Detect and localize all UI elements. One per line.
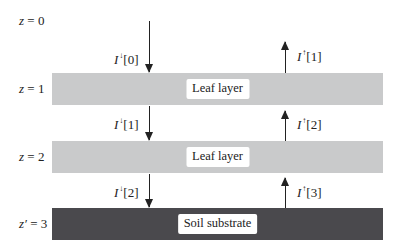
arrow-down-icon bbox=[149, 21, 150, 72]
flux-down-1: I↓[1] bbox=[114, 116, 139, 133]
flux-symbol: I bbox=[114, 117, 118, 132]
flux-index: [1] bbox=[306, 49, 321, 64]
arrow-down-icon bbox=[149, 106, 150, 140]
flux-symbol: I bbox=[114, 52, 118, 67]
arrow-up-icon bbox=[285, 178, 286, 208]
flux-up-1: I↑[1] bbox=[297, 48, 322, 65]
depth-label-z1: z = 1 bbox=[19, 81, 44, 97]
depth-value: = 3 bbox=[27, 216, 47, 231]
flux-up-2: I↑[2] bbox=[297, 116, 322, 133]
flux-symbol: I bbox=[114, 185, 118, 200]
arrow-up-icon bbox=[285, 42, 286, 73]
flux-symbol: I bbox=[297, 117, 301, 132]
flux-index: [2] bbox=[123, 185, 138, 200]
depth-label-z3: z′ = 3 bbox=[19, 216, 47, 232]
layer-label: Leaf layer bbox=[186, 147, 249, 167]
flux-symbol: I bbox=[297, 49, 301, 64]
leaf-layer-1: Leaf layer bbox=[52, 73, 383, 105]
flux-down-0: I↓[0] bbox=[114, 51, 139, 68]
layer-label: Soil substrate bbox=[178, 214, 258, 234]
arrow-down-icon bbox=[149, 174, 150, 207]
flux-index: [2] bbox=[306, 117, 321, 132]
flux-down-2: I↓[2] bbox=[114, 184, 139, 201]
leaf-layer-2: Leaf layer bbox=[52, 141, 383, 173]
flux-index: [0] bbox=[123, 52, 138, 67]
flux-symbol: I bbox=[297, 185, 301, 200]
arrow-up-icon bbox=[285, 111, 286, 141]
soil-substrate-layer: Soil substrate bbox=[52, 208, 383, 240]
layer-label: Leaf layer bbox=[186, 79, 249, 99]
depth-label-z2: z = 2 bbox=[19, 149, 44, 165]
depth-value: = 2 bbox=[24, 149, 44, 164]
flux-up-3: I↑[3] bbox=[297, 184, 322, 201]
depth-label-z0: z = 0 bbox=[19, 13, 44, 29]
depth-var: z′ bbox=[19, 216, 27, 231]
depth-value: = 0 bbox=[24, 13, 44, 28]
depth-value: = 1 bbox=[24, 81, 44, 96]
flux-index: [1] bbox=[123, 117, 138, 132]
flux-index: [3] bbox=[306, 185, 321, 200]
